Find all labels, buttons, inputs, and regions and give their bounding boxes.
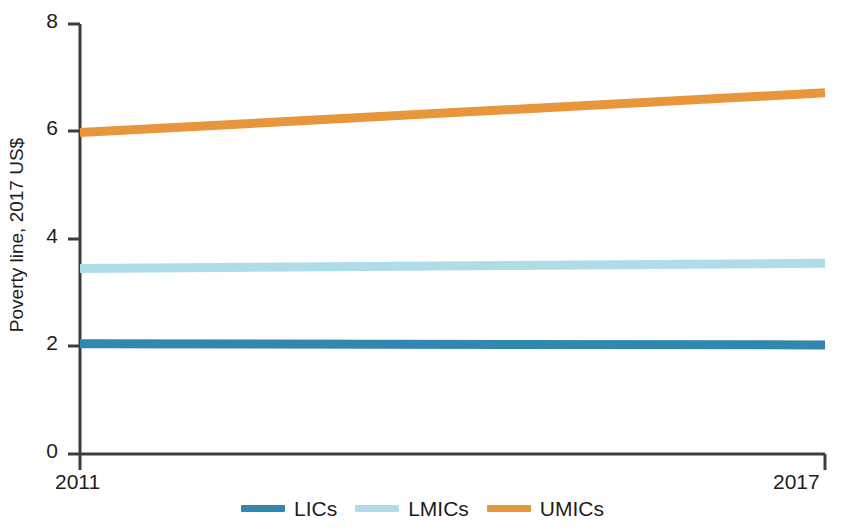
legend-swatch-umics [487, 505, 531, 512]
chart-legend: LICs LMICs UMICs [0, 498, 845, 519]
y-tick-label-8: 8 [20, 9, 58, 33]
chart-figure: Poverty line, 2017 US$ 8 6 4 2 0 2011 20… [0, 0, 845, 530]
x-tick-label-2011: 2011 [55, 470, 100, 494]
legend-item-lics: LICs [241, 498, 337, 519]
legend-swatch-lmics [355, 505, 399, 512]
legend-label-lmics: LMICs [408, 498, 469, 519]
legend-label-lics: LICs [294, 498, 337, 519]
series-line-lic [80, 344, 825, 345]
y-tick-label-2: 2 [20, 331, 58, 355]
legend-label-umics: UMICs [540, 498, 604, 519]
y-tick-label-0: 0 [20, 439, 58, 463]
x-tick-label-2017: 2017 [773, 470, 820, 494]
legend-swatch-lics [241, 505, 285, 512]
chart-plot-area [0, 0, 845, 530]
legend-item-lmics: LMICs [355, 498, 469, 519]
y-tick-label-6: 6 [20, 116, 58, 140]
y-tick-label-4: 4 [20, 224, 58, 248]
series-line-umic [80, 93, 825, 133]
series-line-lmic [80, 263, 825, 268]
legend-item-umics: UMICs [487, 498, 604, 519]
